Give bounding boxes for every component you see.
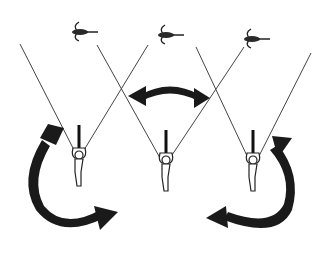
- pilot-figure: [72, 125, 85, 186]
- arrow-center-swing-icon: [128, 86, 210, 108]
- line-center-b: [170, 47, 244, 158]
- kite-icon: [158, 25, 184, 44]
- kite-icon: [72, 22, 98, 41]
- kite-icon: [244, 29, 270, 48]
- pilot-figure: [246, 130, 259, 191]
- kite-flying-diagram: [0, 0, 324, 256]
- line-center-a: [97, 45, 160, 158]
- arrow-left-rotate-icon: [28, 124, 118, 230]
- line-right-a: [196, 47, 248, 158]
- pilot-figure: [159, 130, 172, 191]
